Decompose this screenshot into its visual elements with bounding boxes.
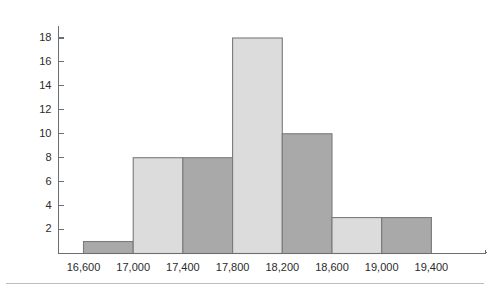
histogram-bar (382, 218, 432, 254)
x-tick-label: 16,600 (67, 261, 101, 273)
y-tick-label: 10 (39, 127, 51, 139)
x-tick-label: 17,000 (116, 261, 150, 273)
bars-layer (84, 38, 432, 254)
y-tick-label: 6 (45, 175, 51, 187)
histogram-bar (84, 242, 134, 254)
histogram-figure: 24681012141618 16,60017,00017,40017,8001… (0, 0, 490, 296)
y-tick-label: 14 (39, 79, 51, 91)
y-tick-label: 16 (39, 55, 51, 67)
histogram-bar (233, 38, 283, 254)
x-tick-label: 17,800 (216, 261, 250, 273)
histogram-bar (282, 134, 332, 254)
histogram-chart: 24681012141618 16,60017,00017,40017,8001… (0, 0, 490, 296)
y-tick-label: 12 (39, 103, 51, 115)
y-tick-label: 8 (45, 151, 51, 163)
x-tick-label: 19,000 (365, 261, 399, 273)
y-axis-ticks: 24681012141618 (39, 31, 63, 235)
histogram-bar (133, 158, 183, 254)
x-tick-label: 17,400 (166, 261, 200, 273)
histogram-bar (332, 218, 382, 254)
y-tick-label: 4 (45, 199, 51, 211)
x-tick-label: 18,200 (265, 261, 299, 273)
x-axis-ticks: 16,60017,00017,40017,80018,20018,60019,0… (67, 261, 449, 273)
y-tick-label: 2 (45, 222, 51, 234)
y-tick-label: 18 (39, 31, 51, 43)
x-tick-label: 18,600 (315, 261, 349, 273)
histogram-bar (183, 158, 233, 254)
x-tick-label: 19,400 (415, 261, 449, 273)
